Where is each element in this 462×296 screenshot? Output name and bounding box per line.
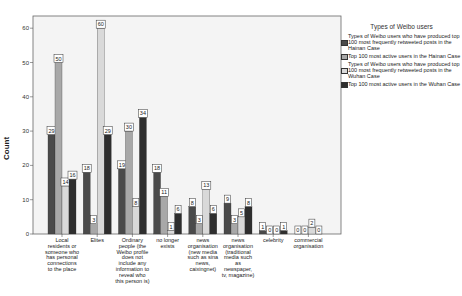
value-label: 1	[282, 224, 285, 230]
x-tick-label: Elites	[79, 238, 115, 244]
bar	[139, 117, 146, 234]
legend-label: Top 100 most active users in the Wuhan C…	[348, 81, 460, 87]
value-label: 6	[177, 206, 180, 212]
bar	[161, 196, 168, 234]
legend-swatch	[341, 82, 348, 88]
bar	[62, 186, 69, 234]
value-label: 18	[154, 165, 160, 171]
value-label: 2	[310, 220, 313, 226]
value-label: 13	[203, 182, 209, 188]
bar	[132, 207, 139, 234]
legend-title: Types of Weibo users	[341, 24, 462, 30]
legend-item-hainan-retweeted: Types of Weibo users who have produced t…	[341, 33, 462, 51]
value-label: 19	[119, 162, 125, 168]
bar	[259, 231, 266, 234]
bar	[90, 224, 97, 234]
value-label: 9	[226, 196, 229, 202]
x-tick-label: newsorganisation(new mediasuch as sinane…	[185, 238, 221, 273]
y-axis-label: Count	[2, 137, 11, 160]
value-label: 29	[48, 128, 54, 134]
x-tick-label: newsorganisation(traditionalmedia suchas…	[220, 238, 256, 279]
bar	[280, 231, 287, 234]
value-label: 8	[134, 200, 137, 206]
value-label: 3	[233, 217, 236, 223]
bar	[189, 207, 196, 234]
legend-swatch	[341, 40, 348, 46]
plot-area	[33, 16, 341, 234]
legend-item-wuhan-active: Top 100 most active users in the Wuhan C…	[341, 81, 462, 87]
bar	[83, 172, 90, 234]
value-label: 1	[170, 224, 173, 230]
bar	[168, 231, 175, 234]
legend-item-hainan-active: Top 100 most active users in the Hainan …	[341, 53, 462, 59]
bar	[175, 213, 182, 234]
y-tick-label: 0	[26, 231, 30, 237]
y-tick-label: 30	[22, 128, 29, 134]
value-label: 0	[275, 227, 278, 233]
bar	[238, 217, 245, 234]
x-tick-label: Ordinarypeople (theWeibo profiledoes not…	[114, 238, 150, 284]
bar	[55, 63, 62, 235]
bar	[118, 169, 125, 234]
x-tick-label: commercialorganisation	[290, 238, 326, 250]
value-label: 50	[55, 56, 61, 62]
legend: Types of Weibo users Types of Weibo user…	[341, 24, 462, 89]
bar	[69, 179, 76, 234]
value-label: 0	[303, 227, 306, 233]
bar	[308, 227, 315, 234]
value-label: 6	[212, 206, 215, 212]
value-label: 1	[261, 224, 264, 230]
value-label: 16	[69, 172, 75, 178]
value-label: 29	[105, 128, 111, 134]
legend-label: Types of Weibo users who have produced t…	[348, 61, 460, 79]
legend-item-wuhan-retweeted: Types of Weibo users who have produced t…	[341, 61, 462, 79]
bar	[203, 189, 210, 234]
bar	[245, 207, 252, 234]
bar	[154, 172, 161, 234]
y-axis: 0102030405060	[22, 25, 33, 237]
value-label: 60	[98, 21, 104, 27]
value-label: 8	[191, 200, 194, 206]
value-label: 8	[247, 200, 250, 206]
value-label: 0	[296, 227, 299, 233]
bar	[231, 224, 238, 234]
x-tick-label: Localresidents orsomeone whohas personal…	[44, 238, 80, 273]
x-tick-label: no longerexists	[150, 238, 186, 250]
y-tick-label: 60	[22, 25, 29, 31]
y-tick-label: 40	[22, 94, 29, 100]
value-label: 0	[317, 227, 320, 233]
value-label: 3	[198, 217, 201, 223]
bar	[210, 213, 217, 234]
value-label: 14	[62, 179, 68, 185]
bar	[196, 224, 203, 234]
legend-swatch	[341, 68, 348, 74]
y-tick-label: 50	[22, 60, 29, 66]
value-label: 34	[140, 110, 146, 116]
x-tick-label: celebrity	[255, 238, 291, 244]
legend-swatch	[341, 54, 348, 60]
value-label: 30	[126, 124, 132, 130]
value-label: 3	[92, 217, 95, 223]
legend-label: Types of Weibo users who have produced t…	[348, 33, 460, 51]
legend-label: Top 100 most active users in the Hainan …	[348, 53, 460, 59]
bar	[104, 135, 111, 234]
value-label: 18	[84, 165, 90, 171]
y-tick-label: 10	[22, 197, 29, 203]
value-label: 5	[240, 210, 243, 216]
value-label: 0	[268, 227, 271, 233]
bar	[48, 135, 55, 234]
y-tick-label: 20	[22, 162, 29, 168]
bar	[224, 203, 231, 234]
value-label: 11	[161, 189, 167, 195]
bar	[125, 131, 132, 234]
